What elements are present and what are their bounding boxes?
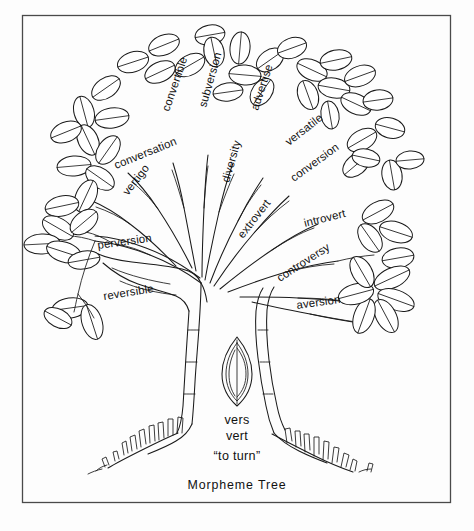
branch-label-aversion: aversion xyxy=(296,293,342,311)
morpheme-vert: vert xyxy=(226,429,248,443)
branch-label-reversible: reversible xyxy=(102,282,154,302)
branch-label-diversity: diversity xyxy=(219,139,242,184)
seed-icon xyxy=(222,337,252,406)
morpheme-vers: vers xyxy=(225,413,250,427)
branch-label-controversy: controversy xyxy=(275,241,332,284)
branch-label-conversion: conversion xyxy=(288,141,341,184)
tree-trunk-icon xyxy=(96,253,327,463)
root-morpheme-labels: vers vert “to turn” xyxy=(214,413,261,463)
branch-label-introvert: introvert xyxy=(303,207,348,229)
morpheme-gloss: “to turn” xyxy=(214,449,261,463)
grass-tuft-right-icon xyxy=(272,428,373,472)
branch-label-perversion: perversion xyxy=(97,231,153,250)
morpheme-tree-figure: reversible perversion vertigo conversati… xyxy=(0,0,474,531)
branch-label-versatile: versatile xyxy=(283,111,325,147)
figure-caption: Morpheme Tree xyxy=(187,478,286,492)
tree-illustration: reversible perversion vertigo conversati… xyxy=(0,0,474,531)
